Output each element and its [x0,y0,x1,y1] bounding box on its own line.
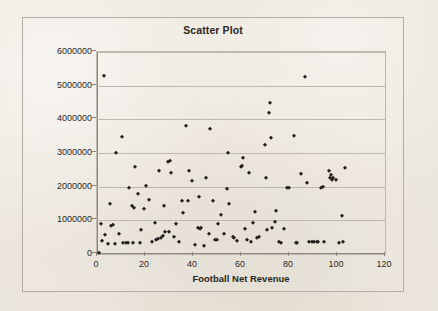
data-point [291,134,296,139]
x-tick-mark [240,252,241,256]
x-tick-mark [96,252,97,256]
y-tick-label: 6000000 [57,46,92,56]
data-point [266,110,271,115]
x-tick-mark [288,252,289,256]
data-point [341,240,346,245]
data-point [224,187,229,192]
data-point [251,221,256,226]
data-point [267,100,272,105]
data-point [139,227,144,232]
gridline [97,187,385,188]
data-point [227,202,232,207]
x-tick-label: 40 [187,259,197,269]
x-tick-mark [384,252,385,256]
data-point [253,210,258,215]
data-point [152,220,157,225]
x-tick-label: 20 [139,259,149,269]
x-tick-label: 120 [376,259,391,269]
data-point [99,239,104,244]
data-point [103,233,108,238]
data-point [204,175,209,180]
data-point [272,220,277,225]
data-point [295,240,300,245]
data-point [201,244,206,249]
data-point [102,73,107,78]
x-tick-label: 100 [328,259,343,269]
data-point [176,240,181,245]
data-point [141,206,146,211]
data-point [333,177,338,182]
data-point [211,199,216,204]
data-point [282,227,287,232]
data-point [180,199,185,204]
data-point [135,192,140,197]
data-point [242,227,247,232]
data-point [120,134,125,139]
chart-title: Scatter Plot [23,24,403,36]
data-point [116,231,121,236]
data-point [278,240,283,245]
data-point [171,234,176,239]
data-point [264,175,269,180]
data-point [206,231,211,236]
data-point [265,227,270,232]
plot-area [96,51,386,255]
data-point [197,195,202,200]
gridline [97,52,385,53]
data-point [343,166,348,171]
data-point [263,143,268,148]
data-point [207,126,212,131]
data-point [215,237,220,242]
data-point [131,240,136,245]
y-tick-label: 2000000 [57,181,92,191]
data-point [183,124,188,129]
chart-frame: Scatter Plot Head Coach School Pay 01000… [22,17,404,292]
data-point [218,213,223,218]
data-point [138,240,143,245]
data-point [248,239,253,244]
data-point [169,170,174,175]
gridline [97,119,385,120]
y-tick-label: 5000000 [57,80,92,90]
y-tick-label: 3000000 [57,147,92,157]
data-point [225,150,230,155]
data-point [181,210,186,215]
x-axis-line [97,253,385,254]
data-point [133,164,138,169]
data-point [146,198,151,203]
data-point [339,213,344,218]
data-point [235,239,240,244]
data-point [302,74,307,79]
data-point [162,203,167,208]
y-axis-ticks: 0100000020000003000000400000050000006000… [23,51,92,255]
x-tick-label: 80 [283,259,293,269]
data-point [108,201,113,206]
data-point [189,178,194,183]
data-point [270,226,275,231]
data-point [216,222,221,227]
data-point [98,222,103,227]
x-axis-title: Football Net Revenue [96,273,386,284]
data-point [273,208,278,213]
x-tick-label: 60 [235,259,245,269]
gridline [97,153,385,154]
y-tick-label: 4000000 [57,113,92,123]
data-point [247,170,252,175]
data-point [187,169,192,174]
data-point [113,241,118,246]
x-tick-mark [336,252,337,256]
data-point [193,242,198,247]
data-point [299,171,304,176]
data-point [132,205,137,210]
x-tick-mark [192,252,193,256]
data-point [241,156,246,161]
x-tick-mark [144,252,145,256]
data-point [321,239,326,244]
data-point [222,232,227,237]
data-point [269,135,274,140]
y-tick-label: 0 [87,248,92,258]
data-point [174,222,179,227]
x-tick-label: 0 [93,259,98,269]
data-point [186,199,191,204]
y-tick-label: 1000000 [57,214,92,224]
